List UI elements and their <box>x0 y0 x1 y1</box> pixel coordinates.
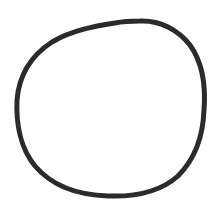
hand-drawn-circle <box>0 0 222 210</box>
drawing-canvas <box>0 0 222 210</box>
